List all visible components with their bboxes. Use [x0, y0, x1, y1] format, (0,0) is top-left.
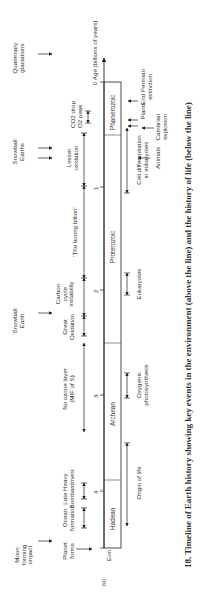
tick-2: 2	[92, 290, 99, 293]
eon-hadean: Hadean	[109, 508, 116, 530]
timeline-figure: Eon 0 Age (billions of years) 4 3 2 1 Ha…	[0, 0, 203, 598]
label-snowball-earth: Snowball Earth	[12, 306, 25, 336]
timeline-graphics	[0, 0, 203, 598]
label-late-heavy-bombardment: Late Heavy Bombardment	[62, 468, 75, 510]
eon-archean: Archean	[109, 402, 116, 426]
label-end-permian-extinction: End Permian extinction	[140, 66, 153, 108]
label-oxygenic-photosynthesis: Oxygenic photosynthesis	[136, 362, 149, 408]
eon-label: Eon	[106, 550, 113, 561]
label-eukaryotes: Eukaryotes	[136, 266, 143, 302]
tick-1: 1	[92, 187, 99, 190]
label-cell-differentiation: Cell differentiation in eukaryotes	[136, 127, 149, 193]
tick-4: 4	[92, 491, 99, 494]
label-cambrian-explosion: Cambrian explosion	[155, 111, 168, 143]
label-planet-forms: Planet forms	[62, 540, 75, 562]
eon-phanerozoic: Phanerozoic	[109, 94, 116, 130]
eon-proterozoic: Proterozoic	[109, 231, 116, 263]
page-number: 60	[100, 579, 108, 586]
label-snowball-earths: Snowball Earths	[12, 137, 25, 167]
label-quaternary-glaciations: Quaternary glaciations	[12, 38, 25, 78]
label-no-ozone-layer: No ozone layer (MIF of S)	[62, 360, 75, 418]
label-carbon-cycle-instability: Carbon cycle instability	[55, 278, 75, 310]
figure-caption: 18. Timeline of Earth history showing ke…	[183, 102, 193, 568]
label-o2-peak: O2 peak	[77, 105, 84, 128]
age-axis-label: 0 Age (billions of years)	[92, 21, 99, 85]
tick-3: 3	[92, 395, 99, 398]
label-animals: Animals	[155, 143, 162, 173]
label-lesser-oxidation: Lesser oxidation	[66, 143, 79, 173]
label-origin-of-life: Origin of life	[136, 458, 143, 508]
label-great-oxidation: Great Oxidation	[62, 311, 75, 343]
eon-box	[104, 82, 121, 548]
label-boring-billion: 'The boring billion'	[72, 201, 79, 263]
label-moon-forming-impact: Moon forming impact	[14, 540, 34, 570]
